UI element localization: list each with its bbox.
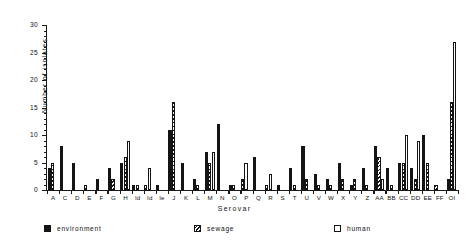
x-tick-label: W	[328, 194, 334, 201]
bar-group	[277, 25, 288, 190]
x-tick	[95, 190, 96, 194]
y-tick-major	[42, 190, 47, 191]
legend-label: human	[347, 225, 371, 232]
legend-label: sewage	[207, 225, 234, 232]
y-tick-major	[42, 135, 47, 136]
x-tick	[277, 190, 278, 194]
x-tick	[168, 190, 169, 194]
y-tick-major	[42, 53, 47, 54]
bar-sewage	[51, 163, 54, 191]
x-tick	[434, 190, 435, 194]
bar-human	[212, 152, 215, 191]
x-tick	[132, 190, 133, 194]
x-tick-label: Ie	[159, 194, 164, 201]
bar-group	[132, 25, 143, 190]
x-tick-label: K	[184, 194, 188, 201]
x-tick-label: R	[268, 194, 273, 201]
bar-group	[108, 25, 119, 190]
bar-sewage	[341, 179, 344, 190]
x-tick	[385, 190, 386, 194]
bar-group	[338, 25, 349, 190]
bar-group	[48, 25, 59, 190]
x-tick-label: DD	[411, 194, 420, 201]
bar-environment	[217, 124, 220, 190]
y-tick-label: 15	[18, 104, 38, 111]
x-tick-label: O	[232, 194, 237, 201]
x-tick-label: S	[281, 194, 285, 201]
bar-group	[362, 25, 373, 190]
legend-swatch-environment-icon	[44, 225, 51, 232]
y-tick-major	[42, 80, 47, 81]
x-tick	[83, 190, 84, 194]
bar-group	[447, 25, 458, 190]
x-tick-label: OI	[449, 194, 456, 201]
x-tick-label: P	[244, 194, 248, 201]
legend-item-environment: environment	[44, 225, 194, 232]
bar-sewage	[196, 185, 199, 191]
x-tick	[240, 190, 241, 194]
bar-group	[229, 25, 240, 190]
bar-group	[144, 25, 155, 190]
bar-group	[156, 25, 167, 190]
bar-environment	[181, 163, 184, 191]
x-tick-label: V	[317, 194, 321, 201]
bar-group	[84, 25, 95, 190]
bar-group	[301, 25, 312, 190]
bar-sewage	[293, 185, 296, 191]
x-tick	[398, 190, 399, 194]
x-tick	[265, 190, 266, 194]
x-tick-label: Q	[256, 194, 261, 201]
x-tick-label: Id	[135, 194, 140, 201]
x-tick-label: Z	[365, 194, 369, 201]
y-tick-label: 0	[18, 186, 38, 193]
x-tick-label: N	[220, 194, 225, 201]
x-tick	[337, 190, 338, 194]
x-tick	[289, 190, 290, 194]
bar-human	[405, 135, 408, 190]
x-tick	[47, 190, 48, 194]
legend-item-human: human	[334, 225, 371, 232]
x-tick	[361, 190, 362, 194]
y-tick-label: 5	[18, 159, 38, 166]
x-tick-label: AA	[375, 194, 383, 201]
y-tick-major	[42, 163, 47, 164]
x-tick-label: A	[51, 194, 55, 201]
x-tick-label: G	[111, 194, 116, 201]
x-tick-label: Id	[147, 194, 152, 201]
chart-figure: Number of isolates 051015202530 ACDEFGHI…	[0, 0, 469, 249]
bar-human	[269, 174, 272, 191]
bar-group	[410, 25, 421, 190]
chart-legend: environmentsewagehuman	[44, 225, 424, 232]
x-tick-label: J	[172, 194, 175, 201]
x-tick	[192, 190, 193, 194]
bar-sewage	[390, 185, 393, 191]
x-tick	[228, 190, 229, 194]
x-tick-label: Y	[353, 194, 357, 201]
bar-sewage	[111, 179, 114, 190]
bar-group	[181, 25, 192, 190]
x-tick	[458, 190, 459, 194]
x-tick-label: FF	[436, 194, 444, 201]
bar-sewage	[305, 179, 308, 190]
bars-layer	[47, 25, 458, 190]
bar-group	[205, 25, 216, 190]
bar-environment	[253, 157, 256, 190]
x-tick-label: F	[99, 194, 103, 201]
bar-group	[60, 25, 71, 190]
bar-group	[253, 25, 264, 190]
legend-swatch-human-icon	[334, 225, 341, 232]
x-tick	[446, 190, 447, 194]
x-tick-label: H	[123, 194, 128, 201]
legend-swatch-sewage-icon	[194, 225, 201, 232]
bar-sewage	[232, 185, 235, 191]
x-tick	[71, 190, 72, 194]
bar-human	[148, 168, 151, 190]
bar-group	[314, 25, 325, 190]
bar-group	[265, 25, 276, 190]
bar-group	[120, 25, 131, 190]
bar-human	[127, 141, 130, 191]
bar-group	[96, 25, 107, 190]
x-tick	[422, 190, 423, 194]
x-tick	[180, 190, 181, 194]
x-tick	[349, 190, 350, 194]
